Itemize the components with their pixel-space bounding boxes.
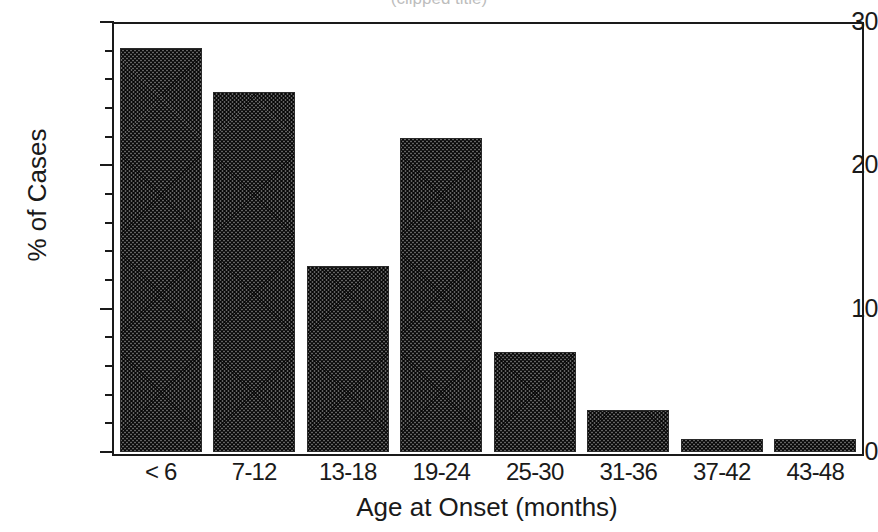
y-axis-minor-tick	[105, 193, 114, 195]
y-axis-minor-tick	[105, 365, 114, 367]
x-axis-tick-label: 43-48	[769, 458, 863, 486]
x-axis-tick-label: 7-12	[208, 458, 302, 486]
y-axis-minor-tick	[105, 394, 114, 396]
y-axis-minor-tick	[105, 279, 114, 281]
bar	[587, 410, 669, 452]
y-axis-minor-tick	[105, 336, 114, 338]
y-axis-minor-tick	[105, 78, 114, 80]
y-axis-minor-tick	[105, 107, 114, 109]
y-axis-major-tick	[100, 164, 114, 166]
bar	[681, 439, 763, 452]
y-axis-minor-tick	[105, 50, 114, 52]
y-axis-minor-tick	[105, 222, 114, 224]
x-axis-tick-labels: < 67-1213-1819-2425-3031-3637-4243-48	[114, 458, 862, 490]
bar	[400, 138, 482, 452]
bar	[120, 48, 202, 452]
x-axis-tick-label: 25-30	[488, 458, 582, 486]
bar	[307, 266, 389, 452]
y-axis-title: % of Cases	[22, 70, 52, 320]
x-axis-tick-label: 37-42	[675, 458, 769, 486]
bar	[213, 92, 295, 452]
bar	[774, 439, 856, 452]
y-axis-major-tick	[100, 451, 114, 453]
bar-series	[114, 22, 862, 454]
bar-chart-figure: (clipped title) 0102030 < 67-1213-1819-2…	[0, 0, 878, 532]
y-axis-minor-tick	[105, 422, 114, 424]
x-axis-tick-label: 13-18	[301, 458, 395, 486]
y-axis-minor-tick	[105, 136, 114, 138]
x-axis-tick-label: < 6	[114, 458, 208, 486]
x-axis-tick-label: 31-36	[582, 458, 676, 486]
y-axis-major-tick	[100, 21, 114, 23]
bar	[494, 352, 576, 452]
x-axis-title: Age at Onset (months)	[112, 492, 862, 522]
y-axis-major-tick	[100, 308, 114, 310]
x-axis-tick-label: 19-24	[395, 458, 489, 486]
y-axis-minor-tick	[105, 250, 114, 252]
